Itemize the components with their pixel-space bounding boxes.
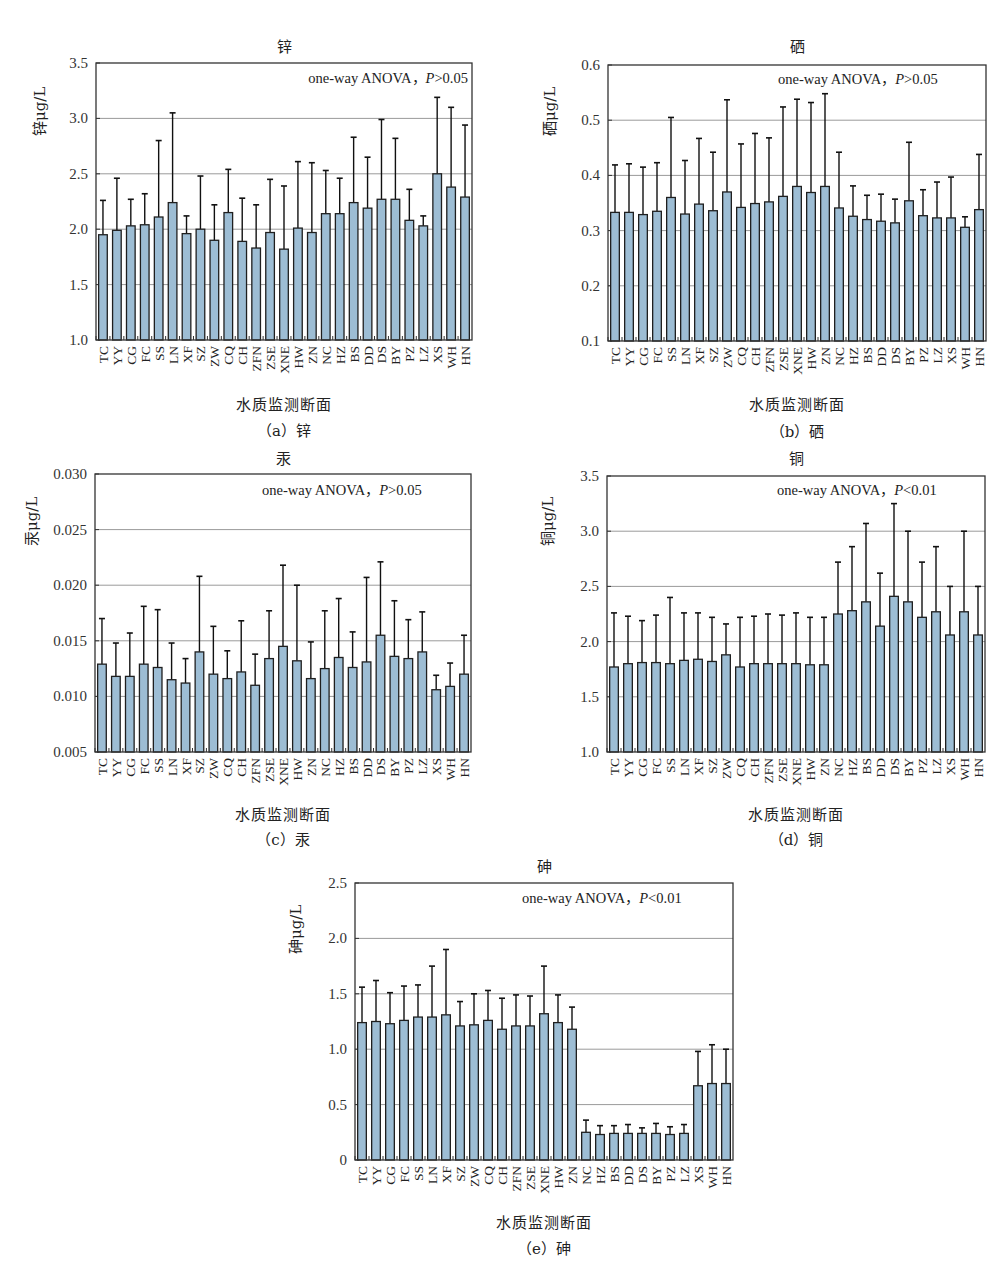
bar	[484, 1020, 493, 1160]
x-tick-label: DD	[621, 1166, 636, 1186]
bar	[498, 1029, 507, 1160]
bar	[540, 1014, 549, 1160]
x-tick-label: ZN	[565, 1166, 580, 1184]
x-tick-label: ZFN	[509, 1166, 524, 1192]
x-tick-label: TC	[355, 1166, 370, 1183]
bar	[372, 1022, 381, 1161]
x-tick-label: ZW	[467, 1166, 482, 1187]
y-tick-label: 1.0	[328, 1041, 347, 1057]
x-tick-label: BS	[607, 1166, 622, 1183]
bar	[694, 1086, 703, 1160]
y-tick-label: 0	[340, 1152, 348, 1168]
x-tick-label: FC	[397, 1166, 412, 1183]
bar	[568, 1029, 577, 1160]
bar	[512, 1026, 521, 1160]
x-tick-label: XNE	[537, 1166, 552, 1194]
y-tick-label: 2.0	[328, 930, 347, 946]
bar	[596, 1135, 605, 1160]
bar	[414, 1017, 423, 1160]
x-tick-label: ZSE	[523, 1166, 538, 1190]
x-tick-label: SZ	[453, 1166, 468, 1182]
x-tick-label: HW	[551, 1166, 566, 1189]
x-tick-label: LN	[425, 1166, 440, 1184]
bar	[582, 1132, 591, 1160]
bar	[400, 1020, 409, 1160]
bar	[680, 1133, 689, 1160]
bar	[652, 1133, 661, 1160]
x-tick-label: HZ	[593, 1166, 608, 1184]
bar	[554, 1023, 563, 1160]
x-tick-label: SS	[411, 1166, 426, 1181]
x-tick-label: CH	[495, 1166, 510, 1185]
x-tick-label: WH	[705, 1166, 720, 1189]
bar	[386, 1024, 395, 1160]
x-tick-label: YY	[369, 1166, 384, 1186]
figure-caption: （e）砷	[355, 1237, 733, 1258]
x-tick-label: NC	[579, 1166, 594, 1185]
y-tick-label: 2.5	[328, 875, 347, 891]
y-tick-label: 0.5	[328, 1097, 347, 1113]
y-tick-label: 1.5	[328, 986, 347, 1002]
bar	[428, 1017, 437, 1160]
chart-panel-arsenic: 砷 砷μg/L one-way ANOVA，P<0.01 00.51.01.52…	[0, 0, 1006, 1270]
bar	[666, 1135, 675, 1160]
bar	[442, 1015, 451, 1160]
x-tick-label: DS	[635, 1166, 650, 1183]
x-tick-label: XS	[691, 1166, 706, 1183]
x-tick-label: HN	[719, 1166, 734, 1186]
bar	[470, 1025, 479, 1160]
bar	[610, 1133, 619, 1160]
x-tick-label: XF	[439, 1166, 454, 1184]
x-tick-label: BY	[649, 1166, 664, 1185]
bar	[526, 1026, 535, 1160]
bar	[722, 1084, 731, 1160]
bar	[624, 1133, 633, 1160]
bar	[638, 1133, 647, 1160]
bar	[456, 1026, 465, 1160]
x-axis-label: 水质监测断面	[355, 1211, 733, 1232]
x-tick-label: LZ	[677, 1166, 692, 1183]
bar	[708, 1084, 717, 1160]
x-tick-label: CG	[383, 1166, 398, 1185]
x-tick-label: CQ	[481, 1166, 496, 1185]
bar	[358, 1023, 367, 1160]
x-tick-label: PZ	[663, 1166, 678, 1182]
bar-chart-plot: 00.51.01.52.02.5TCYYCGFCSSLNXFSZZWCQCHZF…	[0, 0, 1006, 1270]
